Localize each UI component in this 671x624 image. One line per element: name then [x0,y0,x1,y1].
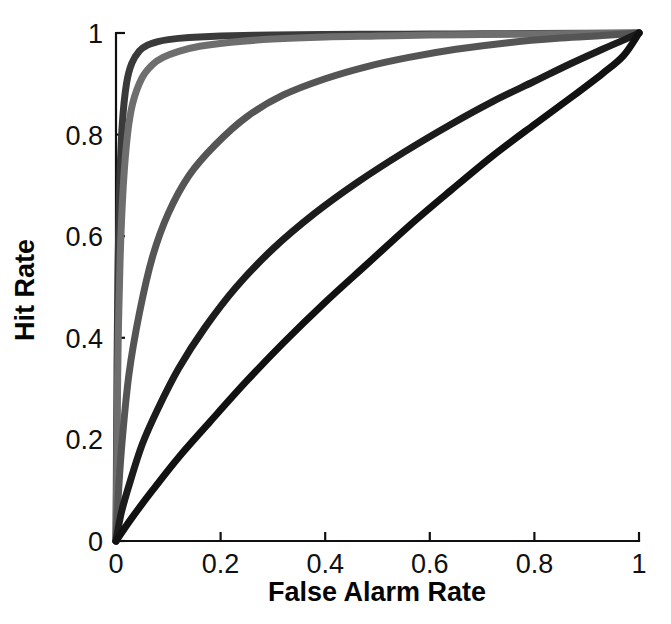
x-axis-tick-labels: 00.20.40.60.81 [108,549,646,579]
x-tick-label: 0.8 [516,549,554,579]
y-axis-tick-labels: 00.20.40.60.81 [65,19,103,557]
y-tick-label: 1 [88,19,103,49]
y-tick-label: 0.2 [65,425,103,455]
y-tick-label: 0.6 [65,222,103,252]
x-tick-label: 1 [631,549,646,579]
roc-chart-svg: 00.20.40.60.81 00.20.40.60.81 False Alar… [0,0,671,624]
x-tick-label: 0.6 [411,549,449,579]
y-tick-label: 0.8 [65,121,103,151]
roc-curve-curve-5 [116,33,639,541]
x-axis-title: False Alarm Rate [268,577,486,607]
x-tick-label: 0.2 [202,549,240,579]
y-tick-label: 0.4 [65,324,103,354]
roc-curves-group [116,33,639,541]
x-tick-label: 0.4 [306,549,344,579]
roc-figure: 00.20.40.60.81 00.20.40.60.81 False Alar… [0,0,671,624]
x-tick-label: 0 [108,549,123,579]
y-tick-label: 0 [88,527,103,557]
y-axis-title: Hit Rate [10,239,40,341]
x-axis-ticks [116,532,639,541]
